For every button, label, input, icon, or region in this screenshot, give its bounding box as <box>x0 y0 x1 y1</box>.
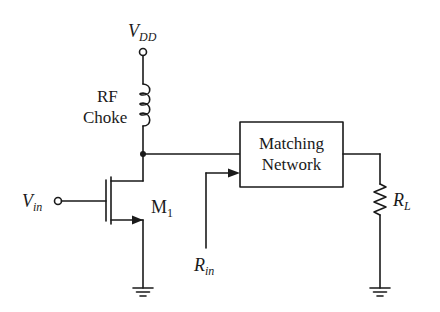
vdd-terminal-icon <box>140 49 147 56</box>
rl-label-sub: L <box>404 199 411 213</box>
m1-label: M1 <box>151 198 173 219</box>
vin-label: Vin <box>22 192 42 213</box>
ground-m1-icon <box>133 288 153 296</box>
rl-label-main: R <box>393 190 404 210</box>
rf-choke-label-line1: RF <box>97 88 118 105</box>
matching-network-line2: Network <box>240 154 343 175</box>
matching-network-label: Matching Network <box>240 133 343 175</box>
vdd-label-main: V <box>128 21 139 41</box>
rf-choke-inductor-icon <box>140 84 150 126</box>
rin-label-main: R <box>194 255 205 275</box>
m1-label-main: M <box>151 197 167 217</box>
m1-label-sub: 1 <box>167 206 173 220</box>
source-arrow-icon <box>132 216 143 225</box>
vin-label-main: V <box>22 191 33 211</box>
rf-choke-label-line2: Choke <box>83 109 127 126</box>
rin-label-sub: in <box>205 264 214 278</box>
rl-label: RL <box>393 191 411 212</box>
matching-network-line1: Matching <box>240 133 343 154</box>
rin-label: Rin <box>194 256 214 277</box>
vdd-label-sub: DD <box>139 30 156 44</box>
circuit-schematic <box>0 0 440 312</box>
vin-terminal-icon <box>55 198 62 205</box>
vdd-label: VDD <box>128 22 156 43</box>
rin-arrow-icon <box>228 169 240 178</box>
ground-rl-icon <box>370 288 390 296</box>
rl-resistor-icon <box>374 184 386 215</box>
vin-label-sub: in <box>33 200 42 214</box>
